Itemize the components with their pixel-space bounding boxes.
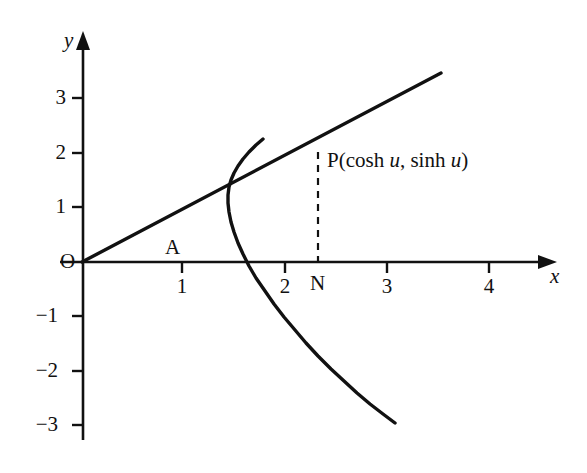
x-tick-label-1: 1: [169, 276, 195, 297]
y-axis: [76, 31, 90, 440]
plot-canvas: [0, 0, 587, 473]
point-n-label: N: [310, 273, 325, 294]
point-a-label: A: [165, 237, 180, 258]
point-p-label: P(cosh u, sinh u): [327, 150, 468, 171]
y-axis-label: y: [64, 30, 73, 51]
x-axis-label: x: [550, 266, 559, 287]
y-tick-label-minus-3: −3: [24, 414, 58, 435]
x-axis: [60, 255, 557, 269]
x-tick-label-2: 2: [272, 276, 298, 297]
point-p-label-suffix: ): [461, 148, 468, 172]
y-tick-label-2: 2: [32, 142, 66, 163]
point-p-label-var1: u: [389, 148, 400, 172]
point-p-label-middle: , sinh: [400, 148, 451, 172]
point-p-label-prefix: P(cosh: [327, 148, 389, 172]
hyperbola-diagram: y x O 3 2 1 −1 −2 −3 1 2 3 4 A N P(cosh …: [0, 0, 587, 473]
x-tick-label-3: 3: [374, 276, 400, 297]
y-tick-label-minus-2: −2: [24, 360, 58, 381]
x-axis-ticks: [182, 262, 489, 273]
origin-label: O: [60, 251, 75, 272]
y-tick-label-1: 1: [32, 196, 66, 217]
x-tick-label-4: 4: [476, 276, 502, 297]
y-tick-label-minus-1: −1: [24, 305, 58, 326]
y-tick-label-3: 3: [32, 87, 66, 108]
point-p-label-var2: u: [451, 148, 462, 172]
